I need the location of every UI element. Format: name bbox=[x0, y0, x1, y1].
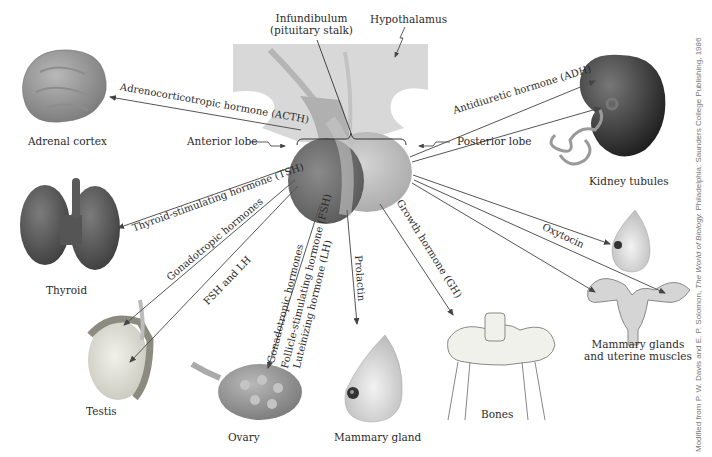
ovary-image bbox=[192, 364, 302, 420]
credit-book: The World of Biology. bbox=[694, 213, 703, 289]
uterus-image bbox=[588, 279, 691, 345]
label-mammary-uterine-line2: and uterine muscles bbox=[584, 350, 692, 362]
label-infundibulum-line1: Infundibulum bbox=[270, 12, 353, 24]
label-anterior-lobe: Anterior lobe bbox=[187, 135, 257, 147]
label-posterior-lobe: Posterior lobe bbox=[457, 135, 531, 147]
bones-image bbox=[448, 313, 555, 420]
credit-prefix: Modified from P. W. Davis and E. P. Solo… bbox=[694, 289, 703, 452]
testis-image bbox=[88, 300, 150, 400]
label-mammary-uterine-line1: Mammary glands bbox=[584, 338, 692, 350]
label-ovary: Ovary bbox=[228, 431, 260, 443]
label-infundibulum: Infundibulum (pituitary stalk) bbox=[270, 12, 353, 36]
mammary-gland-image bbox=[345, 335, 402, 422]
label-bones: Bones bbox=[481, 408, 513, 420]
label-thyroid: Thyroid bbox=[46, 284, 87, 296]
label-mammary-gland: Mammary gland bbox=[334, 431, 421, 443]
label-hypothalamus: Hypothalamus bbox=[370, 13, 447, 25]
pituitary-diagram: Infundibulum (pituitary stalk) Hypothala… bbox=[0, 0, 712, 457]
adrenal-cortex-image bbox=[22, 50, 106, 122]
kidney-image bbox=[580, 55, 666, 157]
label-testis: Testis bbox=[86, 405, 117, 417]
thyroid-image bbox=[20, 178, 120, 270]
credit-suffix: Philadelphia: Saunders College Publishin… bbox=[694, 38, 703, 213]
label-adrenal-cortex: Adrenal cortex bbox=[28, 135, 107, 147]
label-kidney-tubules: Kidney tubules bbox=[589, 175, 669, 187]
label-infundibulum-line2: (pituitary stalk) bbox=[270, 24, 353, 36]
mammary-glands-breast-image bbox=[612, 210, 650, 272]
diagram-artwork bbox=[0, 0, 712, 457]
image-credit: Modified from P. W. Davis and E. P. Solo… bbox=[694, 38, 703, 452]
label-mammary-uterine: Mammary glands and uterine muscles bbox=[584, 338, 692, 362]
label-prolactin: Prolactin bbox=[353, 255, 366, 302]
